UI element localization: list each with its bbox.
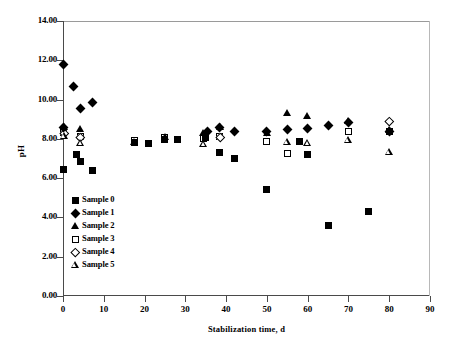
data-point-sample-2 [161,133,169,140]
data-point-sample-5 [344,136,352,143]
data-point-sample-2 [385,126,393,133]
plot-right-border [429,21,430,296]
data-point-sample-2 [60,123,68,130]
data-points-layer [0,0,452,21]
x-axis-tick [348,296,349,302]
y-axis-tick-label: 0.00 [42,291,57,300]
data-point-sample-0 [174,136,181,143]
legend-item-sample-2[interactable]: Sample 2 [69,219,115,232]
x-axis-tick [185,296,186,302]
y-axis-tick-label: 4.00 [42,212,57,221]
data-point-sample-2 [263,129,271,136]
data-point-sample-2 [344,117,352,124]
legend-marker-icon [69,259,82,270]
y-axis-tick-label: 14.00 [38,16,57,25]
legend-item-label: Sample 0 [82,194,115,205]
data-point-sample-0 [304,151,311,158]
data-point-sample-5 [283,138,291,145]
data-point-sample-0 [365,208,372,215]
data-point-sample-0 [60,166,67,173]
y-axis-tick [57,178,64,179]
x-axis-tick-label: 40 [211,304,241,314]
data-point-sample-5 [385,148,393,155]
data-point-sample-2 [283,109,291,116]
plot-top-border [63,21,430,22]
x-axis-tick [267,296,268,302]
y-axis-tick [57,139,64,140]
x-axis-tick-label: 90 [415,304,445,314]
legend-item-sample-5[interactable]: Sample 5 [69,258,115,271]
x-axis-title: Stabilization time, d [63,324,430,334]
y-axis-title: pH [16,121,26,181]
legend-marker-icon [69,233,82,244]
y-axis-tick-label: 2.00 [42,252,57,261]
data-point-sample-2 [216,123,224,130]
data-point-sample-5 [76,139,84,146]
x-axis-tick-label: 70 [333,304,363,314]
data-point-sample-2 [130,138,138,145]
x-axis-tick [389,296,390,302]
x-axis-tick [63,296,64,302]
chart-legend: Sample 0Sample 1Sample 2Sample 3Sample 4… [69,193,115,271]
legend-marker-icon [69,207,82,218]
y-axis-tick-label: 12.00 [38,55,57,64]
data-point-sample-0 [263,186,270,193]
legend-item-sample-0[interactable]: Sample 0 [69,193,115,206]
data-point-sample-0 [89,167,96,174]
data-point-sample-2 [199,129,207,136]
x-axis-tick [226,296,227,302]
data-point-sample-0 [145,140,152,147]
x-axis-tick [145,296,146,302]
legend-item-sample-4[interactable]: Sample 4 [69,245,115,258]
data-point-sample-0 [216,149,223,156]
x-axis-tick-label: 30 [170,304,200,314]
legend-item-label: Sample 5 [82,259,115,270]
y-axis-tick-label: 6.00 [42,173,57,182]
x-axis-tick-label: 60 [293,304,323,314]
y-axis-tick [57,217,64,218]
data-point-sample-5 [60,132,68,139]
ph-stabilization-scatter-chart: 0.002.004.006.008.0010.0012.0014.00 0102… [0,0,452,347]
legend-item-label: Sample 2 [82,220,115,231]
y-axis-tick-label: 8.00 [42,134,57,143]
legend-marker-icon [69,220,82,231]
legend-item-label: Sample 1 [82,207,115,218]
x-axis-tick [104,296,105,302]
data-point-sample-2 [303,112,311,119]
legend-item-label: Sample 3 [82,233,115,244]
y-axis-tick [57,21,64,22]
x-axis-tick-label: 50 [252,304,282,314]
y-axis-tick [57,100,64,101]
data-point-sample-0 [325,222,332,229]
x-axis-tick-label: 80 [374,304,404,314]
data-point-sample-0 [231,155,238,162]
legend-marker-icon [69,194,82,205]
legend-item-sample-3[interactable]: Sample 3 [69,232,115,245]
data-point-sample-3 [263,138,270,145]
y-axis-tick [57,257,64,258]
x-axis-tick [308,296,309,302]
legend-item-sample-1[interactable]: Sample 1 [69,206,115,219]
x-axis-tick-label: 0 [48,304,78,314]
data-point-sample-3 [284,150,291,157]
legend-marker-icon [69,246,82,257]
x-axis-tick-label: 20 [130,304,160,314]
y-axis-tick-label: 10.00 [38,95,57,104]
data-point-sample-0 [77,158,84,165]
legend-item-label: Sample 4 [82,246,115,257]
x-axis-tick-label: 10 [89,304,119,314]
x-axis-tick [430,296,431,302]
data-point-sample-5 [303,139,311,146]
data-point-sample-3 [345,128,352,135]
data-point-sample-0 [296,138,303,145]
data-point-sample-2 [76,125,84,132]
plot-area [63,21,430,296]
